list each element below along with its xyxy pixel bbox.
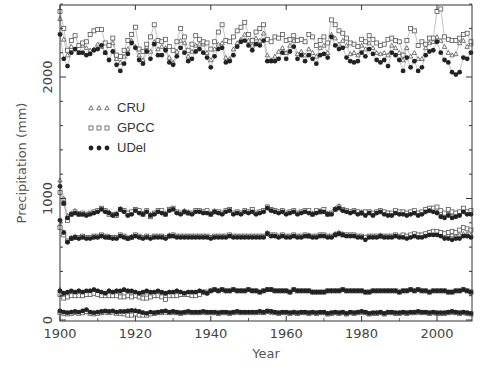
data-point-gpcc — [164, 37, 168, 41]
data-point-gpcc — [118, 54, 122, 58]
data-point-udel — [435, 211, 440, 216]
data-point-udel — [393, 53, 398, 58]
x-tick-label: 1960 — [270, 326, 303, 341]
data-point-cru — [420, 57, 424, 61]
data-point-gpcc — [356, 45, 360, 49]
data-point-cru — [352, 51, 356, 55]
data-point-gpcc — [107, 43, 111, 47]
data-point-gpcc — [292, 34, 296, 38]
data-point-gpcc — [69, 39, 73, 43]
data-point-cru — [382, 51, 386, 55]
data-point-udel — [171, 207, 176, 212]
data-point-udel — [190, 56, 195, 61]
data-point-gpcc — [311, 35, 315, 39]
data-point-gpcc — [84, 40, 88, 44]
data-point-gpcc — [228, 40, 232, 44]
data-point-udel — [322, 52, 327, 57]
data-point-gpcc — [186, 48, 190, 52]
data-point-udel — [329, 35, 334, 40]
data-point-udel — [65, 64, 70, 69]
data-point-gpcc — [171, 48, 175, 52]
data-point-udel — [276, 56, 281, 61]
data-point-udel — [261, 38, 266, 43]
data-point-cru — [390, 43, 394, 47]
data-point-udel — [435, 39, 440, 44]
data-point-udel — [152, 42, 157, 47]
data-point-udel — [231, 53, 236, 58]
data-point-udel — [295, 56, 300, 61]
data-point-udel — [306, 53, 311, 58]
data-point-udel — [333, 43, 338, 48]
data-point-udel — [144, 209, 149, 214]
data-point-gpcc — [179, 26, 183, 30]
data-point-udel — [371, 52, 376, 57]
data-point-udel — [61, 56, 66, 61]
data-point-udel — [163, 212, 168, 217]
data-point-udel — [110, 49, 115, 54]
data-point-udel — [61, 201, 66, 206]
triangle-open-icon — [89, 106, 109, 110]
data-point-udel — [420, 65, 425, 70]
data-point-cru — [160, 44, 164, 48]
data-point-udel — [212, 54, 217, 59]
data-point-udel — [386, 64, 391, 69]
data-point-gpcc — [231, 35, 235, 39]
legend-label-cru: CRU — [117, 100, 145, 115]
data-point-gpcc — [205, 41, 209, 45]
data-point-gpcc — [439, 7, 443, 11]
data-point-udel — [329, 212, 334, 217]
x-tick-label: 1980 — [345, 326, 378, 341]
data-point-gpcc — [431, 36, 435, 40]
data-point-gpcc — [66, 48, 70, 52]
data-point-gpcc — [133, 25, 137, 29]
legend-marker — [105, 126, 109, 130]
legend-marker — [97, 106, 101, 110]
data-point-udel — [469, 212, 474, 217]
legend-label-gpcc: GPCC — [117, 120, 155, 135]
legend-marker — [97, 126, 101, 130]
data-point-gpcc — [303, 40, 307, 44]
y-tick-label: 2000 — [40, 60, 55, 93]
data-point-udel — [103, 50, 108, 55]
data-point-gpcc — [329, 18, 333, 22]
legend-item-udel: UDel — [89, 140, 146, 155]
data-point-gpcc — [280, 32, 284, 36]
data-point-gpcc — [190, 42, 194, 46]
data-point-gpcc — [209, 47, 213, 51]
data-point-gpcc — [239, 25, 243, 29]
data-point-udel — [465, 56, 470, 61]
data-point-udel — [382, 58, 387, 63]
data-point-udel — [159, 53, 164, 58]
data-point-cru — [454, 52, 458, 56]
data-point-cru — [84, 46, 88, 50]
data-point-udel — [412, 59, 417, 64]
legend-marker — [89, 106, 93, 110]
data-point-gpcc — [363, 40, 367, 44]
data-point-udel — [408, 65, 413, 70]
data-point-cru — [442, 44, 446, 48]
y-axis-title: Precipitation (mm) — [14, 103, 29, 224]
data-point-cru — [167, 55, 171, 59]
data-point-udel — [69, 50, 74, 55]
data-point-gpcc — [99, 28, 103, 32]
data-point-udel — [141, 61, 146, 66]
data-point-gpcc — [322, 35, 326, 39]
data-point-udel — [118, 69, 123, 74]
x-tick-label: 2000 — [420, 326, 453, 341]
data-point-cru — [412, 51, 416, 55]
data-point-udel — [261, 235, 266, 240]
legend-marker — [97, 146, 102, 151]
data-point-udel — [137, 58, 142, 63]
data-point-udel — [355, 59, 360, 64]
data-point-udel — [314, 61, 319, 66]
data-point-udel — [122, 209, 127, 214]
legend-marker — [89, 126, 93, 130]
data-point-gpcc — [73, 34, 77, 38]
data-point-udel — [220, 45, 225, 50]
data-point-udel — [416, 69, 421, 74]
legend-item-cru: CRU — [89, 100, 145, 115]
data-point-gpcc — [111, 36, 115, 40]
data-point-gpcc — [333, 23, 337, 27]
data-point-gpcc — [262, 23, 266, 27]
data-point-udel — [163, 48, 168, 53]
